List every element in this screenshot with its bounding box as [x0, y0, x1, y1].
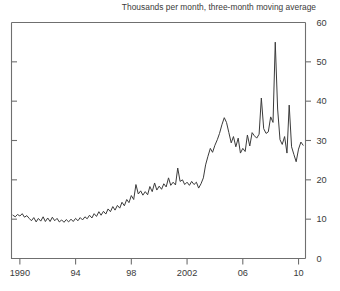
y-tick-label: 20 [317, 175, 327, 185]
axis-frame [12, 23, 306, 259]
series-line [13, 42, 303, 222]
x-tick-label: 98 [126, 268, 136, 278]
y-axis-ticks [12, 62, 312, 219]
chart-figure: Thousands per month, three-month moving … [0, 0, 340, 291]
x-axis-tick-labels: 1990949820020610 [10, 268, 304, 278]
y-axis-tick-labels: 0102030405060 [317, 18, 327, 264]
x-tick-label: 10 [293, 268, 303, 278]
y-tick-label: 60 [317, 18, 327, 28]
x-tick-label: 94 [70, 268, 80, 278]
y-tick-label: 30 [317, 136, 327, 146]
y-tick-label: 0 [317, 254, 322, 264]
line-chart-plot: 0102030405060 1990949820020610 [0, 0, 340, 291]
y-tick-label: 40 [317, 96, 327, 106]
x-tick-label: 1990 [10, 268, 30, 278]
x-tick-label: 06 [238, 268, 248, 278]
x-axis-ticks [20, 259, 299, 265]
y-tick-label: 10 [317, 214, 327, 224]
y-tick-label: 50 [317, 57, 327, 67]
data-series-line [13, 42, 303, 222]
x-tick-label: 2002 [177, 268, 197, 278]
